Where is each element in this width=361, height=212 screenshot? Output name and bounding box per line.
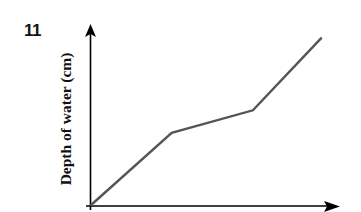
axes [85,24,340,212]
depth-chart [0,0,361,212]
depth-line [91,38,322,206]
